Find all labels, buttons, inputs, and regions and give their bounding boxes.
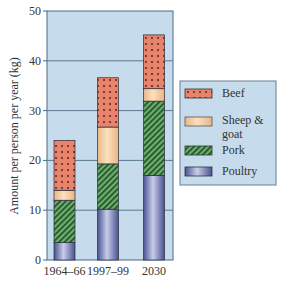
legend-swatch-beef — [185, 89, 212, 98]
bar-segment-poultry — [54, 243, 75, 260]
y-tick-label: 10 — [29, 203, 41, 217]
x-tick-label: 1964–66 — [44, 264, 86, 278]
bar-segment-sheep-goat — [144, 89, 165, 101]
legend: Beef Sheep & goat Pork Poultry — [180, 81, 276, 185]
y-tick-label: 30 — [29, 104, 41, 118]
y-axis-label: Amount per person per year (kg) — [7, 57, 21, 215]
bar-segment-poultry — [144, 175, 165, 260]
y-tick-label: 50 — [29, 4, 41, 18]
bar-segment-sheep-goat — [54, 190, 75, 200]
x-tick-label: 2030 — [142, 264, 166, 278]
legend-swatch-sheep-goat — [185, 117, 212, 126]
bar-segment-poultry — [98, 209, 119, 260]
x-axis-labels: 1964–661997–992030 — [44, 264, 167, 278]
stacked-bar-chart: 01020304050 1964–661997–992030 Amount pe… — [0, 0, 287, 283]
bar-segment-pork — [54, 200, 75, 242]
y-tick-label: 40 — [29, 54, 41, 68]
legend-label-sheep-goat-line2: goat — [222, 127, 243, 141]
bar-segment-beef — [144, 35, 165, 89]
y-tick-label: 0 — [35, 253, 41, 267]
bar-segment-beef — [54, 140, 75, 190]
y-tick-label: 20 — [29, 153, 41, 167]
legend-label-poultry: Poultry — [222, 164, 257, 178]
bar-segment-beef — [98, 78, 119, 127]
bar-segment-pork — [144, 101, 165, 175]
legend-swatch-poultry — [185, 167, 212, 176]
y-axis-ticks: 01020304050 — [29, 4, 47, 267]
legend-swatch-pork — [185, 146, 212, 155]
legend-label-sheep-goat-line1: Sheep & — [222, 113, 264, 127]
bar-segment-sheep-goat — [98, 127, 119, 164]
bar-segment-pork — [98, 164, 119, 209]
legend-label-beef: Beef — [222, 86, 245, 100]
legend-label-pork: Pork — [222, 143, 245, 157]
x-tick-label: 1997–99 — [87, 264, 129, 278]
